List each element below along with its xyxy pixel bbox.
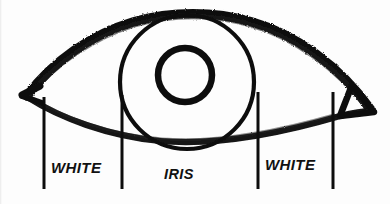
lower-eyelid: [27, 97, 371, 142]
pupil-ring: [158, 48, 212, 102]
label-iris: IRIS: [164, 167, 194, 182]
iris-circle: [120, 15, 254, 149]
label-white-left: WHITE: [51, 160, 101, 175]
label-white-right: WHITE: [265, 157, 315, 172]
eye-diagram: WHITE IRIS WHITE: [0, 0, 390, 204]
